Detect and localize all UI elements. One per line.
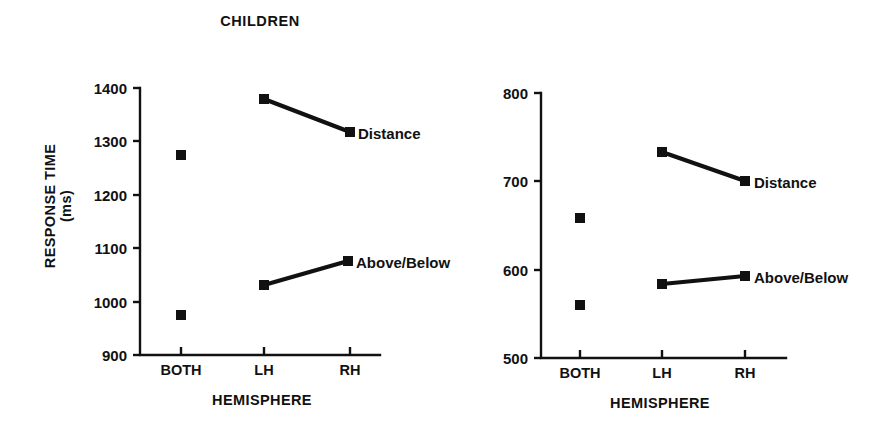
ytick-label-700: 700: [476, 173, 528, 190]
xtick-label-rh: RH: [340, 362, 361, 378]
ytick-label-1400: 1400: [72, 80, 127, 97]
point-distance-rh-adults: [740, 176, 750, 186]
xtick-label-lh: LH: [254, 362, 273, 378]
ytick-label-1000: 1000: [72, 294, 127, 311]
series-line-above-below-children: [264, 261, 348, 285]
ytick-label-1200: 1200: [72, 187, 127, 204]
ytick-label-500: 500: [476, 350, 528, 367]
point-above-below-both-adults: [575, 300, 585, 310]
ytick-label-600: 600: [476, 262, 528, 279]
xaxis-title-adults: HEMISPHERE: [610, 395, 710, 411]
point-distance-both-adults: [575, 213, 585, 223]
yaxis-title-unit: (ms): [58, 126, 74, 286]
ytick-label-1300: 1300: [72, 133, 127, 150]
point-distance-both-children: [176, 150, 186, 160]
point-distance-rh-children: [345, 127, 355, 137]
yaxis-title-main: RESPONSE TIME: [42, 144, 58, 268]
panel-adults: ADULTS 800 700 600: [446, 0, 892, 435]
series-label-above-below-adults: Above/Below: [754, 269, 848, 286]
series-label-distance-children: Distance: [358, 125, 421, 142]
ytick-label-900: 900: [72, 347, 127, 364]
series-label-above-below-children: Above/Below: [356, 254, 450, 271]
point-distance-lh-adults: [657, 147, 667, 157]
panel-children: CHILDREN 1400: [0, 0, 446, 435]
point-above-below-rh-children: [343, 256, 353, 266]
point-above-below-lh-children: [259, 280, 269, 290]
xtick-label-both: BOTH: [160, 362, 201, 378]
series-label-distance-adults: Distance: [754, 174, 817, 191]
point-above-below-both-children: [176, 310, 186, 320]
series-line-above-below-adults: [662, 276, 745, 284]
point-above-below-rh-adults: [740, 271, 750, 281]
xtick-label-both-adults: BOTH: [559, 365, 600, 381]
ytick-label-800: 800: [476, 85, 528, 102]
xaxis-title-children: HEMISPHERE: [212, 392, 312, 408]
xtick-label-rh-adults: RH: [735, 365, 756, 381]
figure-two-panel-response-time: CHILDREN 1400: [0, 0, 892, 435]
series-line-distance-adults: [662, 152, 745, 181]
xtick-label-lh-adults: LH: [652, 365, 671, 381]
point-distance-lh-children: [259, 94, 269, 104]
ytick-label-1100: 1100: [72, 240, 127, 257]
yaxis-title-children: RESPONSE TIME (ms): [42, 126, 74, 286]
axis-frame-adults: [541, 93, 786, 358]
series-line-distance-children: [264, 99, 350, 132]
point-above-below-lh-adults: [657, 279, 667, 289]
